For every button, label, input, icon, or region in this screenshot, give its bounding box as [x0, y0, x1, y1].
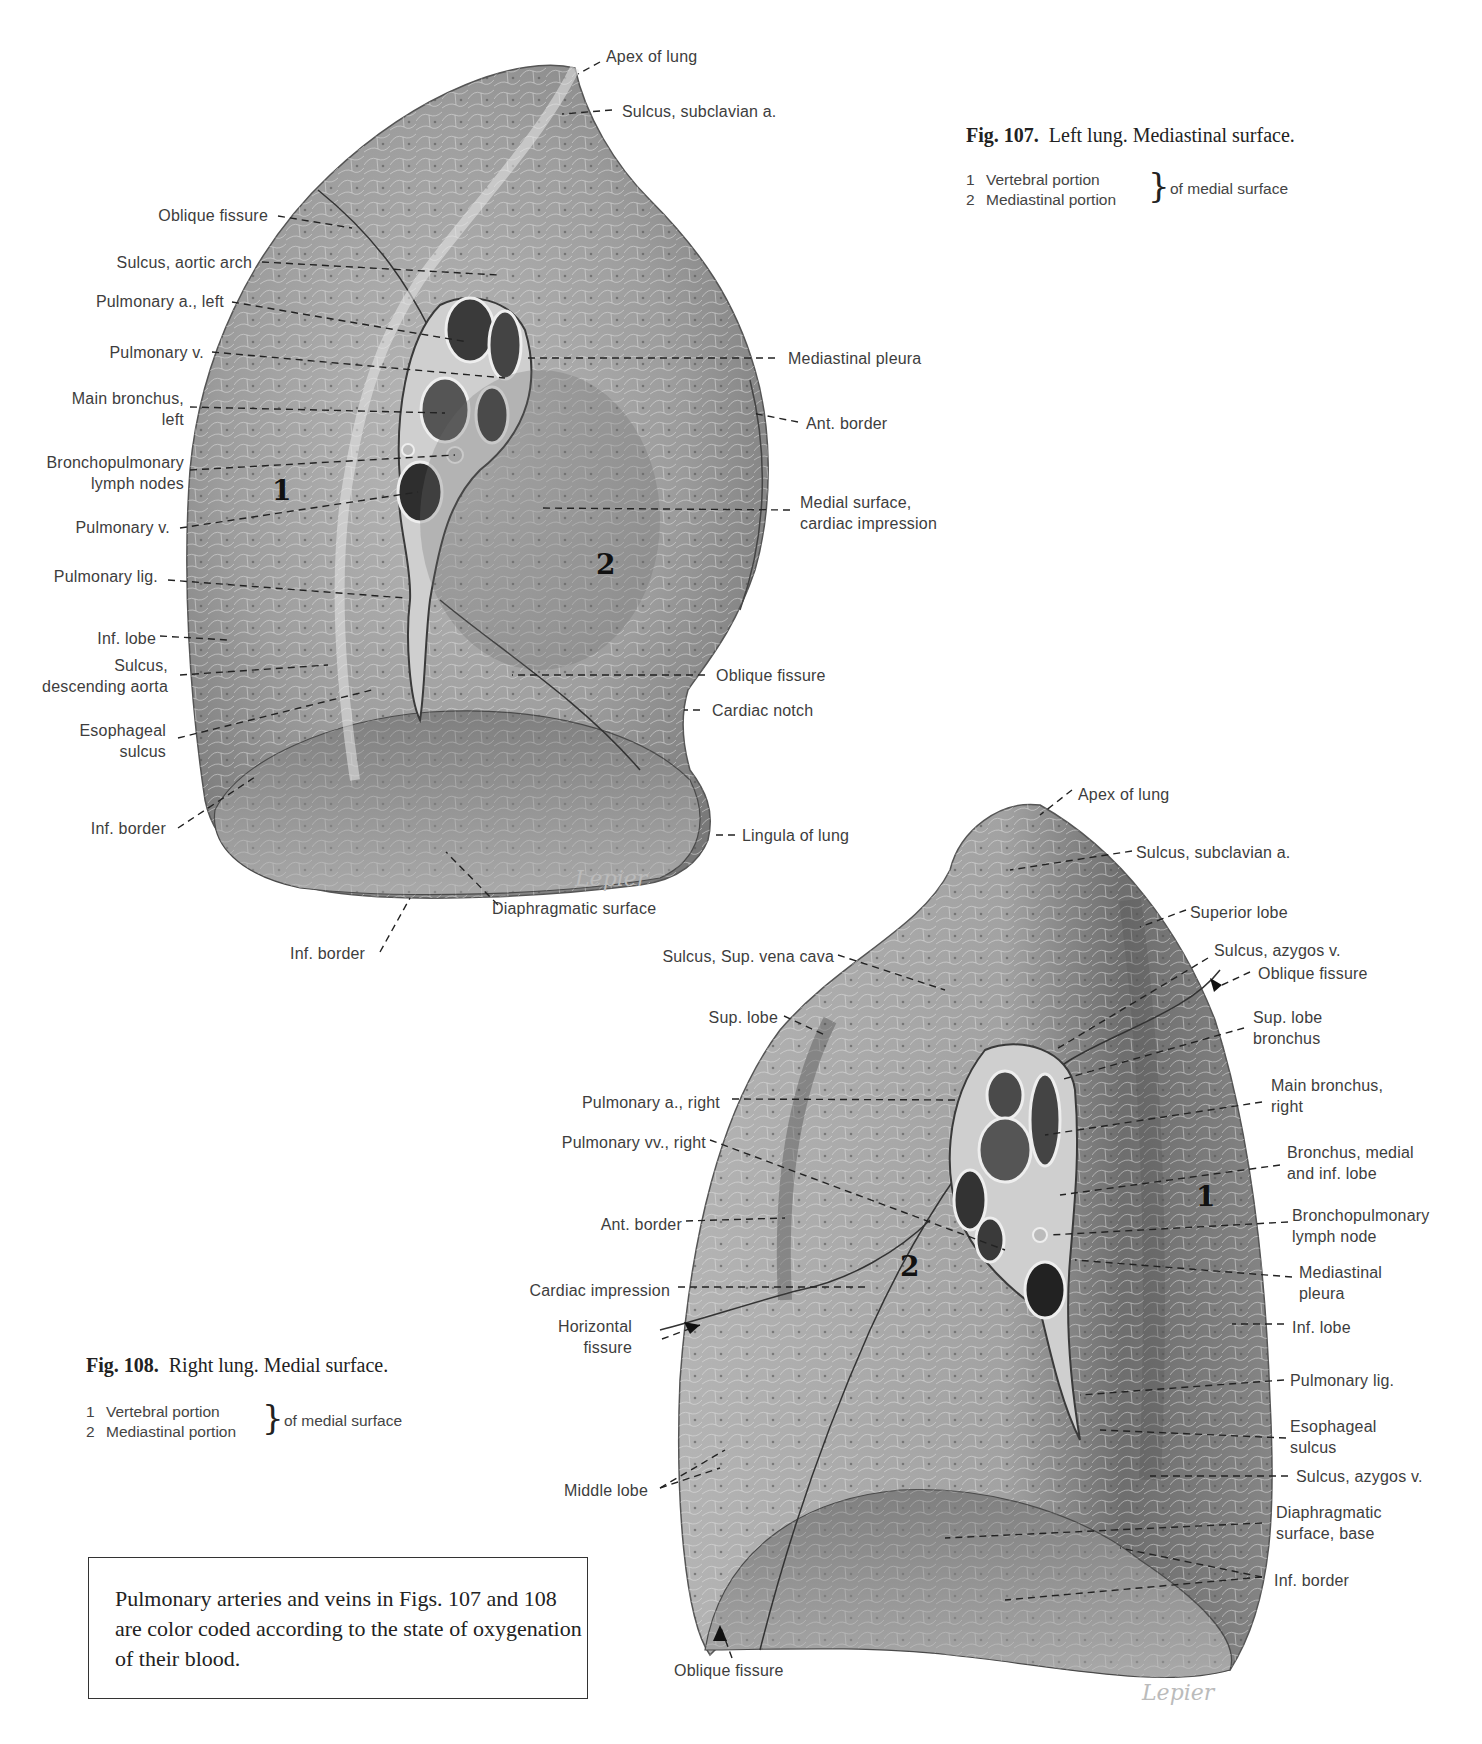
- label-sulcus-azygos-bottom: Sulcus, azygos v.: [1296, 1466, 1423, 1487]
- label-sulcus-subclavian: Sulcus, subclavian a.: [622, 101, 777, 122]
- legend-item-vertebral: 1Vertebral portion: [966, 170, 1116, 190]
- label-cardiac-notch: Cardiac notch: [712, 700, 813, 721]
- label-oblique-fissure-top-right: Oblique fissure: [1258, 963, 1368, 984]
- label-cardiac-impression: Cardiac impression: [500, 1280, 670, 1301]
- label-diaphragmatic-surface-base: Diaphragmatic surface, base: [1276, 1502, 1382, 1544]
- region-number-mediastinal-right: 2: [900, 1250, 919, 1283]
- label-oblique-fissure-lower: Oblique fissure: [716, 665, 826, 686]
- region-number-vertebral: 1: [272, 474, 291, 507]
- label-sulcus-sup-vena-cava: Sulcus, Sup. vena cava: [620, 946, 834, 967]
- fig108-title: Fig. 108. Right lung. Medial surface.: [86, 1354, 388, 1377]
- label-inf-lobe: Inf. lobe: [40, 628, 156, 649]
- label-esophageal-sulcus: Esophageal sulcus: [40, 720, 166, 762]
- label-middle-lobe: Middle lobe: [520, 1480, 648, 1501]
- atlas-page: Fig. 107. Left lung. Mediastinal surface…: [0, 0, 1482, 1744]
- label-oblique-fissure: Oblique fissure: [120, 205, 268, 226]
- label-sulcus-azygos-top: Sulcus, azygos v.: [1214, 940, 1341, 961]
- label-apex-of-lung-right: Apex of lung: [1078, 784, 1169, 805]
- label-bronchus-medial-inf-lobe: Bronchus, medial and inf. lobe: [1287, 1142, 1414, 1184]
- fig108-legend-suffix: of medial surface: [284, 1412, 402, 1430]
- label-esophageal-sulcus-right: Esophageal sulcus: [1290, 1416, 1377, 1458]
- label-lingula-of-lung: Lingula of lung: [742, 825, 849, 846]
- label-pulmonary-lig-right: Pulmonary lig.: [1290, 1370, 1394, 1391]
- label-sulcus-aortic-arch: Sulcus, aortic arch: [80, 252, 252, 273]
- legend-item-mediastinal-108: 2Mediastinal portion: [86, 1422, 236, 1442]
- brace-icon: }: [1148, 168, 1170, 202]
- fig107-legend-suffix: of medial surface: [1170, 180, 1288, 198]
- label-inf-border-left: Inf. border: [40, 818, 166, 839]
- fig108-number: Fig. 108.: [86, 1354, 159, 1376]
- label-superior-lobe: Superior lobe: [1190, 902, 1288, 923]
- label-mediastinal-pleura-right: Mediastinal pleura: [1299, 1262, 1382, 1304]
- label-diaphragmatic-surface: Diaphragmatic surface: [492, 898, 656, 919]
- label-inf-border-bottom: Inf. border: [290, 943, 365, 964]
- artist-signature-right: Lepier: [1142, 1680, 1214, 1705]
- label-sup-lobe: Sup. lobe: [680, 1007, 778, 1028]
- label-inf-border-right: Inf. border: [1274, 1570, 1349, 1591]
- label-bronchopulmonary-lymph-node: Bronchopulmonary lymph node: [1292, 1205, 1430, 1247]
- label-pulmonary-a-right: Pulmonary a., right: [540, 1092, 720, 1113]
- label-sulcus-subclavian-right: Sulcus, subclavian a.: [1136, 842, 1291, 863]
- label-sup-lobe-bronchus: Sup. lobe bronchus: [1253, 1007, 1322, 1049]
- fig107-number: Fig. 107.: [966, 124, 1039, 146]
- note-text: Pulmonary arteries and veins in Figs. 10…: [115, 1586, 582, 1671]
- label-ant-border: Ant. border: [806, 413, 887, 434]
- label-sulcus-descending-aorta: Sulcus, descending aorta: [20, 655, 168, 697]
- label-main-bronchus-right: Main bronchus, right: [1271, 1075, 1383, 1117]
- label-main-bronchus-left: Main bronchus, left: [40, 388, 184, 430]
- region-number-mediastinal: 2: [596, 548, 615, 581]
- fig107-legend: 1Vertebral portion 2Mediastinal portion: [966, 170, 1116, 210]
- fig107-title: Fig. 107. Left lung. Mediastinal surface…: [966, 124, 1295, 147]
- label-pulmonary-vv-right: Pulmonary vv., right: [530, 1132, 706, 1153]
- label-inf-lobe-right: Inf. lobe: [1292, 1317, 1351, 1338]
- label-ant-border-right: Ant. border: [560, 1214, 682, 1235]
- region-number-vertebral-right: 1: [1196, 1180, 1215, 1213]
- label-pulmonary-a-left: Pulmonary a., left: [60, 291, 224, 312]
- fig107-caption: Left lung. Mediastinal surface.: [1049, 124, 1295, 146]
- label-pulmonary-lig: Pulmonary lig.: [20, 566, 158, 587]
- label-pulmonary-v-lower: Pulmonary v.: [40, 517, 170, 538]
- label-apex-of-lung: Apex of lung: [606, 46, 697, 67]
- label-mediastinal-pleura: Mediastinal pleura: [788, 348, 921, 369]
- color-coding-note: Pulmonary arteries and veins in Figs. 10…: [88, 1557, 588, 1699]
- right-lung-drawing: [660, 804, 1272, 1677]
- fig108-caption: Right lung. Medial surface.: [169, 1354, 388, 1376]
- artist-signature: Lepier: [575, 866, 647, 891]
- label-pulmonary-v-upper: Pulmonary v.: [80, 342, 204, 363]
- label-bronchopulmonary-lymph-nodes: Bronchopulmonary lymph nodes: [20, 452, 184, 494]
- brace-icon-108: }: [262, 1400, 284, 1434]
- label-horizontal-fissure: Horizontal fissure: [520, 1316, 632, 1358]
- legend-item-mediastinal: 2Mediastinal portion: [966, 190, 1116, 210]
- label-medial-surface-cardiac-impression: Medial surface, cardiac impression: [800, 492, 937, 534]
- fig108-legend: 1Vertebral portion 2Mediastinal portion: [86, 1402, 236, 1442]
- label-oblique-fissure-bottom: Oblique fissure: [674, 1660, 784, 1681]
- legend-item-vertebral-108: 1Vertebral portion: [86, 1402, 236, 1422]
